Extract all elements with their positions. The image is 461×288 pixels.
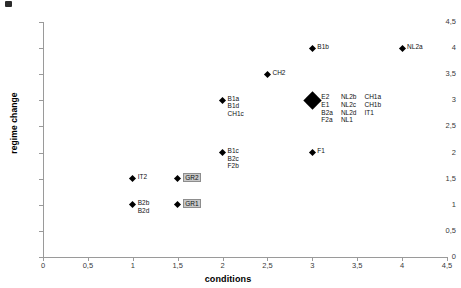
diamond-marker-icon xyxy=(174,175,181,182)
point-label: CH1a xyxy=(364,93,381,101)
y-tick-mark xyxy=(39,205,43,206)
y-tick-label: 1 xyxy=(422,201,456,209)
highlighted-label: GR1 xyxy=(183,199,201,208)
data-point-labels: IT2 xyxy=(138,173,147,181)
data-point-labels: B2bB2d xyxy=(138,199,150,214)
x-tick-label: 1 xyxy=(118,262,148,270)
x-tick-label: 0,5 xyxy=(73,262,103,270)
data-point-labels: B1b xyxy=(317,43,329,51)
point-label: B2d xyxy=(138,207,150,215)
point-label: NL2d xyxy=(341,109,357,117)
y-tick-mark xyxy=(39,48,43,49)
label-column: GR1 xyxy=(183,199,201,208)
point-label: IT2 xyxy=(138,173,147,181)
x-tick-label: 0 xyxy=(28,262,58,270)
label-column: NL2a xyxy=(407,43,423,51)
point-label: B1c xyxy=(228,147,239,155)
y-tick-label: 3,5 xyxy=(422,70,456,78)
label-column: F1 xyxy=(317,147,325,155)
x-tick-label: 3 xyxy=(297,262,327,270)
diamond-marker-icon xyxy=(309,45,316,52)
x-tick-label: 1,5 xyxy=(163,262,193,270)
label-column: CH1aCH1bIT1 xyxy=(364,93,381,123)
y-tick-mark xyxy=(39,231,43,232)
point-label: CH1b xyxy=(364,101,381,109)
y-tick-label: 2 xyxy=(422,149,456,157)
highlighted-label: GR2 xyxy=(183,173,201,182)
point-label: B2c xyxy=(228,155,239,163)
label-column: IT2 xyxy=(138,173,147,181)
point-label: CH2 xyxy=(272,69,285,77)
data-point-labels: GR2 xyxy=(183,173,201,182)
point-label: B1a xyxy=(228,95,244,103)
label-column: E2E1B2aF2a xyxy=(321,93,333,123)
diamond-marker-icon xyxy=(309,149,316,156)
label-column: NL2bNL2cNL2dNL1 xyxy=(341,93,357,123)
point-label: B2b xyxy=(138,199,150,207)
x-axis-line xyxy=(43,257,447,258)
y-tick-mark xyxy=(39,22,43,23)
x-tick-label: 4,5 xyxy=(432,262,461,270)
point-label: B1d xyxy=(228,102,244,110)
point-label: E1 xyxy=(321,101,333,109)
y-tick-mark xyxy=(39,179,43,180)
point-label: NL2a xyxy=(407,43,423,51)
y-tick-label: 4 xyxy=(422,44,456,52)
diamond-marker-icon xyxy=(219,149,226,156)
x-tick-label: 4 xyxy=(387,262,417,270)
data-point-labels: B1cB2cF2b xyxy=(228,147,239,170)
point-label: F1 xyxy=(317,147,325,155)
y-tick-mark xyxy=(39,100,43,101)
point-label: CH1c xyxy=(228,110,244,118)
y-tick-mark xyxy=(39,126,43,127)
data-point-labels: F1 xyxy=(317,147,325,155)
label-column: B1cB2cF2b xyxy=(228,147,239,170)
label-column: GR2 xyxy=(183,173,201,182)
point-label: GR2 xyxy=(183,173,201,182)
diamond-marker-icon xyxy=(129,175,136,182)
x-tick-label: 2 xyxy=(208,262,238,270)
y-tick-label: 0,5 xyxy=(422,227,456,235)
label-column: CH2 xyxy=(272,69,285,77)
y-axis-title: regime change xyxy=(9,78,19,168)
data-point-labels: CH2 xyxy=(272,69,285,77)
point-label: E2 xyxy=(321,93,333,101)
y-tick-label: 4,5 xyxy=(422,18,456,26)
diamond-marker-icon xyxy=(264,71,271,78)
data-point-labels: B1aB1dCH1c xyxy=(228,95,244,118)
label-column: B2bB2d xyxy=(138,199,150,214)
point-label: IT1 xyxy=(364,109,381,117)
point-label: NL2b xyxy=(341,93,357,101)
y-tick-label: 2,5 xyxy=(422,122,456,130)
label-column: B1aB1dCH1c xyxy=(228,95,244,118)
y-tick-label: 1,5 xyxy=(422,175,456,183)
point-label: F2a xyxy=(321,116,333,124)
data-point-labels: GR1 xyxy=(183,199,201,208)
diamond-marker-icon xyxy=(174,201,181,208)
x-tick-label: 2,5 xyxy=(252,262,282,270)
point-label: NL1 xyxy=(341,116,357,124)
point-label: B1b xyxy=(317,43,329,51)
corner-artifact xyxy=(5,1,12,7)
data-point-labels: E2E1B2aF2aNL2bNL2cNL2dNL1CH1aCH1bIT1 xyxy=(321,93,381,123)
label-column: B1b xyxy=(317,43,329,51)
y-tick-mark xyxy=(39,153,43,154)
diamond-marker-icon xyxy=(399,45,406,52)
point-label: NL2c xyxy=(341,101,357,109)
y-tick-mark xyxy=(39,74,43,75)
diamond-marker-icon xyxy=(129,201,136,208)
point-label: F2b xyxy=(228,162,239,170)
y-tick-label: 0 xyxy=(422,253,456,261)
x-tick-label: 3,5 xyxy=(342,262,372,270)
x-axis-title: conditions xyxy=(0,274,456,284)
data-point-labels: NL2a xyxy=(407,43,423,51)
diamond-marker-icon xyxy=(219,97,226,104)
y-tick-label: 3 xyxy=(422,96,456,104)
y-axis-line xyxy=(43,22,44,257)
point-label: B2a xyxy=(321,109,333,117)
point-label: GR1 xyxy=(183,199,201,208)
diamond-marker-icon xyxy=(303,91,321,109)
